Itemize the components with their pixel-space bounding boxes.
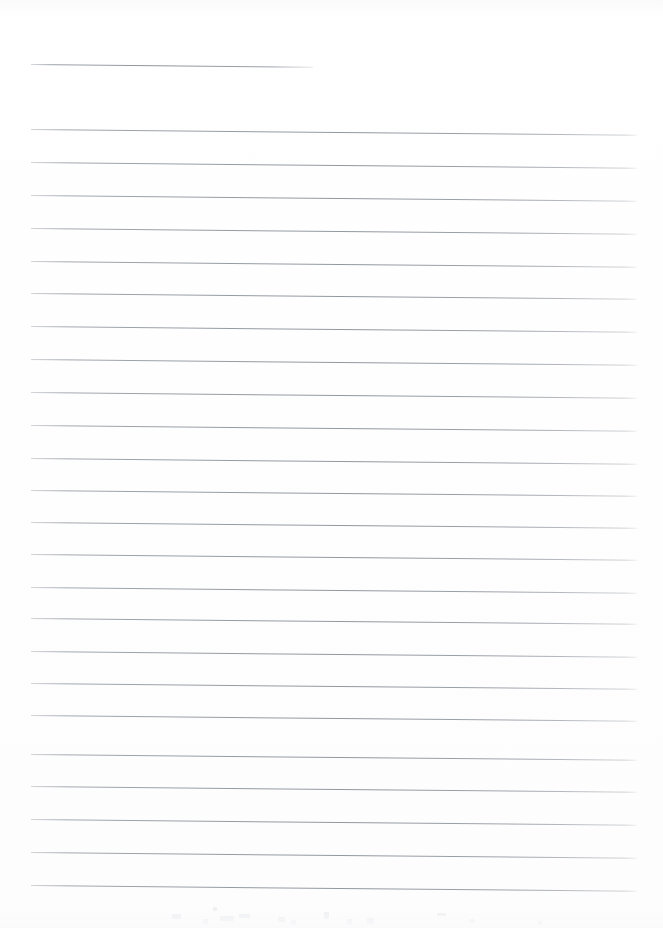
page-top-shade bbox=[0, 0, 663, 18]
scanned-page: Blank ruled notepaper page bbox=[0, 0, 663, 928]
page-bottom-shade bbox=[0, 906, 663, 928]
